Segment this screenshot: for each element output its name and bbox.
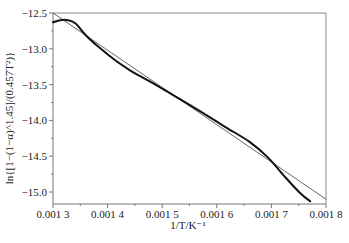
x-tick-label: 0.001 3 [37, 208, 71, 220]
y-tick-label: −13.5 [22, 79, 48, 91]
linear-fit-line [53, 13, 326, 199]
series-layer [53, 13, 326, 201]
x-ticks: 0.001 30.001 40.001 50.001 60.001 70.001… [37, 204, 344, 220]
experimental-curve [53, 20, 310, 201]
y-axis-title: ln{[1−(1−α)^1.45]/(0.457T²)} [3, 52, 16, 185]
x-axis-title: 1/T/K⁻¹ [170, 219, 206, 231]
y-tick-label: −15.0 [22, 186, 48, 198]
chart: 0.001 30.001 40.001 50.001 60.001 70.001… [0, 0, 349, 243]
x-tick-label: 0.001 4 [91, 208, 125, 220]
y-tick-label: −13.0 [22, 43, 48, 55]
x-tick-label: 0.001 7 [255, 208, 289, 220]
y-tick-label: −12.5 [22, 7, 48, 19]
y-tick-label: −14.0 [22, 114, 48, 126]
y-tick-label: −14.5 [22, 150, 48, 162]
y-ticks: −12.5−13.0−13.5−14.0−14.5−15.0 [22, 7, 53, 198]
x-tick-label: 0.001 8 [310, 208, 344, 220]
